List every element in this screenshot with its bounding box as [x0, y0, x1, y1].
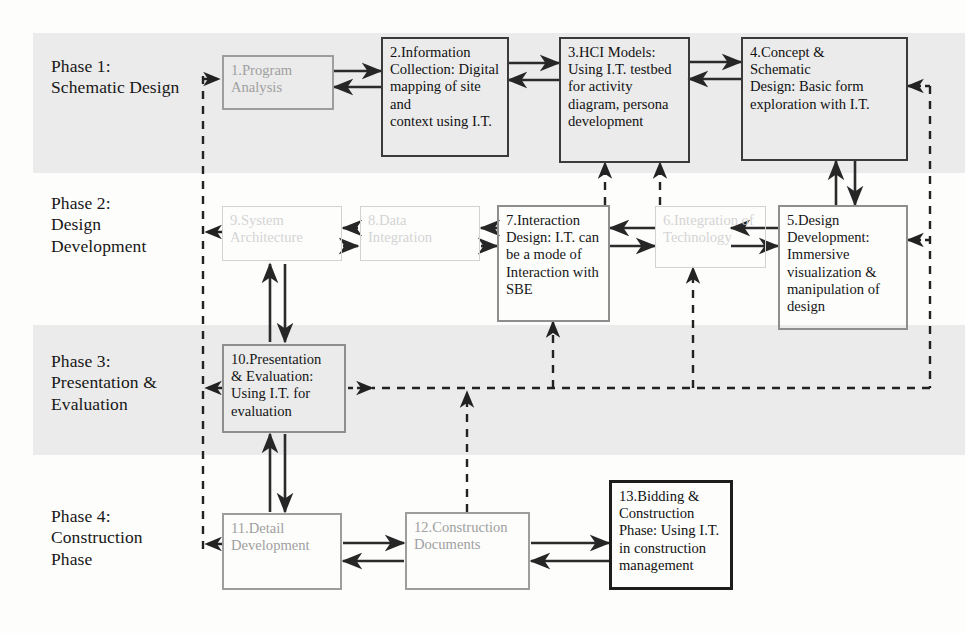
node-12-label: 12.Construction Documents — [414, 519, 524, 553]
node-13-bidding-construction-phase[interactable]: 13.Bidding & Construction Phase: Using I… — [609, 480, 733, 590]
node-6-label: 6.Integration of Technology — [663, 212, 761, 246]
node-8-data-integration[interactable]: 8.Data Integration — [360, 206, 480, 261]
node-7-label: 7.Interaction Design: I.T. can be a mode… — [506, 212, 604, 298]
node-4-label: 4.Concept & Schematic Design: Basic form… — [750, 44, 902, 113]
phase-label-3: Phase 3: Presentation & Evaluation — [51, 351, 157, 415]
phase-label-1: Phase 1: Schematic Design — [51, 56, 179, 99]
node-5-design-development[interactable]: 5.Design Development: Immersive visualiz… — [778, 205, 908, 330]
node-12-construction-documents[interactable]: 12.Construction Documents — [405, 512, 530, 590]
phase-label-2: Phase 2: Design Development — [51, 193, 146, 257]
node-3-hci-models[interactable]: 3.HCI Models: Using I.T. testbed for act… — [559, 37, 690, 163]
node-8-label: 8.Data Integration — [368, 212, 475, 246]
node-10-label: 10.Presentation & Evaluation: Using I.T.… — [231, 351, 340, 420]
node-3-label: 3.HCI Models: Using I.T. testbed for act… — [568, 44, 684, 130]
node-9-label: 9.System Architecture — [230, 212, 337, 246]
node-13-label: 13.Bidding & Construction Phase: Using I… — [619, 488, 726, 574]
node-5-label: 5.Design Development: Immersive visualiz… — [787, 212, 902, 315]
node-10-presentation-evaluation[interactable]: 10.Presentation & Evaluation: Using I.T.… — [222, 344, 346, 433]
node-7-interaction-design[interactable]: 7.Interaction Design: I.T. can be a mode… — [497, 205, 610, 322]
node-2-information-collection[interactable]: 2.Information Collection: Digital mappin… — [381, 37, 509, 157]
node-4-concept-schematic-design[interactable]: 4.Concept & Schematic Design: Basic form… — [741, 37, 908, 161]
node-1-label: 1.Program Analysis — [231, 62, 328, 96]
node-11-label: 11.Detail Development — [231, 520, 336, 554]
node-9-system-architecture[interactable]: 9.System Architecture — [222, 206, 342, 261]
node-11-detail-development[interactable]: 11.Detail Development — [222, 513, 342, 590]
phase-label-4: Phase 4: Construction Phase — [51, 506, 143, 570]
node-6-integration-of-technology[interactable]: 6.Integration of Technology — [655, 206, 766, 268]
node-2-label: 2.Information Collection: Digital mappin… — [390, 44, 503, 130]
node-1-program-analysis[interactable]: 1.Program Analysis — [222, 55, 334, 110]
diagram-canvas: Phase 1: Schematic Design Phase 2: Desig… — [0, 0, 965, 633]
